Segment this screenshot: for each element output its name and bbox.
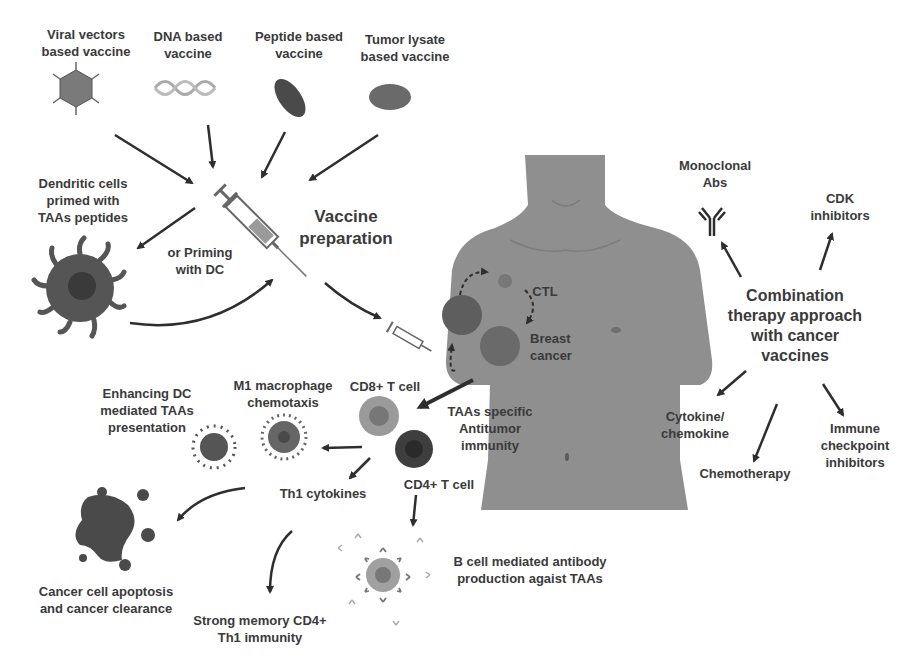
cytokine-chemokine-label: Cytokine/ chemokine [650, 408, 740, 442]
vaccine-type-arrows [115, 125, 378, 183]
th1-cytokines-label: Th1 cytokines [268, 485, 378, 502]
monoclonal-abs-label: Monoclonal Abs [670, 157, 760, 191]
virus-icon [53, 62, 99, 115]
dna-helix-icon [155, 82, 215, 95]
cd8-t-cell-icon [359, 396, 399, 436]
combination-therapy-label: Combination therapy approach with cancer… [720, 286, 870, 366]
memory-immunity-label: Strong memory CD4+ Th1 immunity [190, 612, 330, 646]
tumor-lysate-vaccine-label: Tumor lysate based vaccine [355, 31, 455, 65]
immune-checkpoint-label: Immune checkpoint inhibitors [810, 420, 900, 471]
cdk-inhibitors-label: CDK inhibitors [800, 190, 880, 224]
cancer-apoptosis-label: Cancer cell apoptosis and cancer clearan… [26, 583, 186, 617]
peptide-vaccine-label: Peptide based vaccine [244, 28, 354, 62]
ctl-label: CTL [525, 283, 565, 300]
cd4-t-cell-label: CD4+ T cell [394, 476, 484, 493]
apoptotic-cancer-cell-icon [75, 487, 155, 571]
dendritic-cells-label: Dendritic cells primed with TAAs peptide… [28, 175, 138, 226]
b-cell-antibody-label: B cell mediated antibody production agai… [440, 553, 620, 587]
dna-vaccine-label: DNA based vaccine [148, 28, 228, 62]
antitumor-immunity-label: TAAs specific Antitumor immunity [440, 403, 540, 454]
breast-cancer-label: Breast cancer [530, 330, 590, 364]
monoclonal-antibody-icon [699, 208, 725, 236]
cd4-t-cell-icon [395, 430, 433, 468]
b-cell-icon [338, 534, 430, 625]
peptide-icon [268, 74, 311, 123]
viral-vector-vaccine-label: Viral vectors based vaccine [36, 26, 136, 60]
m1-macrophage-label: M1 macrophage chemotaxis [228, 377, 338, 411]
priming-with-dc-label: or Priming with DC [160, 244, 240, 278]
tumor-lysate-icon [369, 84, 411, 110]
small-syringe-icon [387, 322, 435, 356]
chemotherapy-label: Chemotherapy [690, 465, 800, 482]
m1-macrophage-icon [262, 415, 306, 459]
vaccine-preparation-label: Vaccine preparation [296, 206, 396, 250]
dendritic-cell-icon [34, 238, 124, 336]
cd8-t-cell-label: CD8+ T cell [340, 378, 430, 395]
enhancing-dc-label: Enhancing DC mediated TAAs presentation [92, 385, 202, 436]
